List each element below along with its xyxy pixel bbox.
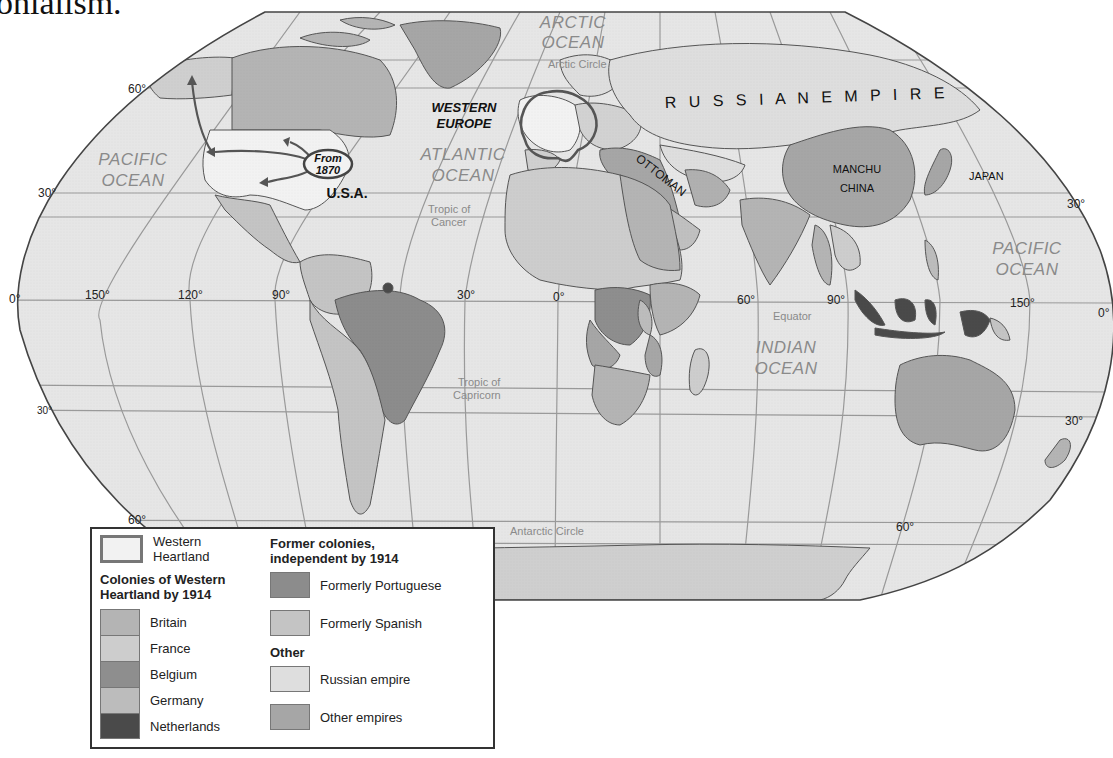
tropic-cancer-label-1: Tropic of bbox=[428, 203, 471, 215]
lon-150e-label: 150° bbox=[1010, 296, 1035, 310]
tropic-capricorn-label-2: Capricorn bbox=[453, 389, 501, 401]
manchu-china-label-2: CHINA bbox=[840, 182, 875, 194]
legend-item-russian-empire: Russian empire bbox=[270, 666, 410, 692]
netherlands-label: Netherlands bbox=[150, 719, 220, 734]
usa-label: U.S.A. bbox=[326, 185, 367, 201]
legend-item-western-heartland: Western Heartland bbox=[100, 534, 209, 564]
russian-empire-swatch bbox=[270, 666, 310, 692]
lon-90w-label: 90° bbox=[272, 288, 290, 302]
former-colonies-header-2: independent by 1914 bbox=[270, 551, 399, 566]
western-europe-label-2: EUROPE bbox=[437, 116, 492, 131]
antarctic-circle-label: Antarctic Circle bbox=[510, 525, 584, 537]
indian-ocean-label-2: OCEAN bbox=[755, 359, 818, 378]
legend-item-formerly-spanish: Formerly Spanish bbox=[270, 610, 422, 636]
legend-item-britain: Britain bbox=[100, 609, 187, 635]
former-colonies-header-1: Former colonies, bbox=[270, 536, 375, 551]
belgium-swatch bbox=[100, 661, 140, 687]
colonies-header-2: Heartland by 1914 bbox=[100, 587, 211, 602]
legend-item-belgium: Belgium bbox=[100, 661, 197, 687]
from-1870-label-2: 1870 bbox=[316, 164, 341, 176]
legend-item-france: France bbox=[100, 635, 190, 661]
other-header: Other bbox=[270, 645, 305, 660]
lat-minus30-east-label: 30° bbox=[1065, 414, 1083, 428]
france-label: France bbox=[150, 641, 190, 656]
britain-label: Britain bbox=[150, 615, 187, 630]
lon-150w-label: 150° bbox=[85, 288, 110, 302]
region-canada bbox=[232, 46, 397, 137]
russian-empire-label: Russian empire bbox=[320, 672, 410, 687]
lat-30-east-label: 30° bbox=[1067, 197, 1085, 211]
netherlands-swatch bbox=[100, 713, 140, 739]
atlantic-ocean-label-2: OCEAN bbox=[432, 166, 495, 185]
japan-label: JAPAN bbox=[969, 170, 1004, 182]
pacific-ocean-east-label-2: OCEAN bbox=[996, 260, 1059, 279]
lat-minus60-west-label: 60° bbox=[128, 513, 146, 527]
map-legend: Western Heartland Colonies of Western He… bbox=[90, 527, 495, 749]
formerly-spanish-swatch bbox=[270, 610, 310, 636]
france-swatch bbox=[100, 635, 140, 661]
lon-90e-label: 90° bbox=[827, 293, 845, 307]
lat-minus30-west-label: 30° bbox=[37, 405, 52, 416]
arctic-circle-label: Arctic Circle bbox=[548, 58, 607, 70]
germany-label: Germany bbox=[150, 693, 203, 708]
legend-item-germany: Germany bbox=[100, 687, 203, 713]
lat-30-west-label: 30° bbox=[38, 186, 56, 200]
germany-swatch bbox=[100, 687, 140, 713]
western-heartland-swatch bbox=[100, 535, 143, 563]
arctic-ocean-label-1: ARCTIC bbox=[539, 13, 607, 32]
formerly-portuguese-swatch bbox=[270, 572, 310, 598]
legend-item-formerly-portuguese: Formerly Portuguese bbox=[270, 572, 441, 598]
lat-minus60-east-label: 60° bbox=[896, 520, 914, 534]
western-heartland-label-1: Western bbox=[153, 534, 209, 549]
western-heartland-label-2: Heartland bbox=[153, 549, 209, 564]
arctic-ocean-label-2: OCEAN bbox=[542, 33, 605, 52]
belgium-label: Belgium bbox=[150, 667, 197, 682]
lat-60-west-label: 60° bbox=[128, 82, 146, 96]
lat-0-west-label: 0° bbox=[9, 292, 21, 306]
western-europe-label-1: WESTERN bbox=[432, 100, 498, 115]
formerly-portuguese-label: Formerly Portuguese bbox=[320, 578, 441, 593]
atlantic-ocean-label-1: ATLANTIC bbox=[420, 145, 506, 164]
legend-item-other-empires: Other empires bbox=[270, 704, 402, 730]
pacific-ocean-east-label-1: PACIFIC bbox=[992, 239, 1062, 258]
legend-item-netherlands: Netherlands bbox=[100, 713, 220, 739]
lat-0-east-label: 0° bbox=[1098, 306, 1110, 320]
other-empires-label: Other empires bbox=[320, 710, 402, 725]
equator-label: Equator bbox=[773, 310, 812, 322]
tropic-cancer-label-2: Cancer bbox=[431, 216, 467, 228]
colonies-header-1: Colonies of Western bbox=[100, 572, 225, 587]
lon-0-label: 0° bbox=[553, 290, 565, 304]
other-empires-swatch bbox=[270, 704, 310, 730]
indian-ocean-label-1: INDIAN bbox=[756, 338, 817, 357]
britain-swatch bbox=[100, 609, 140, 635]
lon-60e-label: 60° bbox=[737, 293, 755, 307]
lon-30w-label: 30° bbox=[457, 288, 475, 302]
formerly-spanish-label: Formerly Spanish bbox=[320, 616, 422, 631]
pacific-ocean-west-label-1: PACIFIC bbox=[98, 150, 168, 169]
lon-120w-label: 120° bbox=[178, 288, 203, 302]
from-1870-label-1: From bbox=[314, 152, 342, 164]
manchu-china-label-1: MANCHU bbox=[833, 163, 881, 175]
pacific-ocean-west-label-2: OCEAN bbox=[102, 171, 165, 190]
tropic-capricorn-label-1: Tropic of bbox=[458, 376, 501, 388]
